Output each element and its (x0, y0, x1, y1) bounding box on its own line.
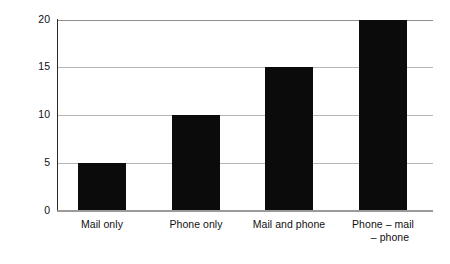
y-tick-0: 0 (0, 205, 50, 216)
x-label-mail-and-phone: Mail and phone (233, 218, 345, 231)
x-axis-line (57, 210, 433, 212)
y-axis-line (57, 19, 58, 212)
y-tick-10: 10 (0, 109, 50, 120)
x-label-phone-only: Phone only (146, 218, 246, 231)
x-label-phone-mail-phone: Phone – mail – phone (333, 218, 433, 244)
bar-mail-and-phone (265, 67, 313, 210)
x-label-phone-mail-phone-line2: – phone (333, 231, 433, 244)
y-tick-20: 20 (0, 14, 50, 25)
gridline-20 (57, 20, 433, 21)
y-tick-label-5: 5 (6, 157, 50, 168)
x-label-mail-and-phone-line1: Mail and phone (253, 218, 326, 230)
x-label-phone-only-line1: Phone only (169, 218, 222, 230)
x-label-mail-only: Mail only (52, 218, 152, 231)
x-label-mail-only-line1: Mail only (81, 218, 123, 230)
gridline-10 (57, 115, 433, 116)
y-tick-5: 5 (0, 157, 50, 168)
bar-mail-only (78, 163, 126, 210)
gridline-15 (57, 67, 433, 68)
y-tick-15: 15 (0, 61, 50, 72)
y-tick-label-20: 20 (6, 14, 50, 25)
y-tick-label-15: 15 (6, 61, 50, 72)
bar-chart: Typical multiples achieved 20 15 10 5 0 … (0, 0, 450, 264)
gridline-5 (57, 163, 433, 164)
y-tick-label-0: 0 (6, 205, 50, 216)
x-label-phone-mail-phone-line1: Phone – mail (352, 218, 414, 230)
y-tick-label-10: 10 (6, 109, 50, 120)
